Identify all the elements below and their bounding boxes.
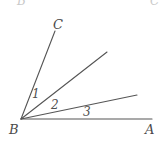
- cropped-label-top-right: C: [150, 0, 159, 7]
- geometry-canvas: [0, 0, 162, 147]
- angle-diagram-figure: B C C B A 1 2 3: [0, 0, 162, 147]
- point-label-a: A: [145, 123, 154, 136]
- point-label-c: C: [53, 18, 63, 31]
- angle-label-3: 3: [83, 106, 91, 118]
- angle-label-1: 1: [32, 88, 40, 100]
- cropped-label-top-left: B: [17, 0, 26, 7]
- angle-label-2: 2: [51, 99, 59, 111]
- point-label-b: B: [9, 123, 19, 136]
